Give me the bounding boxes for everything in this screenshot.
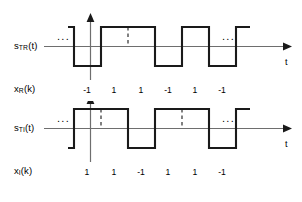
chip-value: -1	[214, 84, 230, 96]
amplitude-axis-arrowhead-imag	[87, 101, 95, 104]
panel-imaginary-branch: sTI(t) ... ... xI(k) 1 1 -1 1 1 -1	[0, 101, 302, 202]
leading-ellipsis-real: ...	[57, 31, 70, 42]
chip-value: 1	[106, 84, 122, 96]
chip-value: 1	[133, 84, 149, 96]
trailing-ellipsis-real: ...	[222, 31, 235, 42]
amplitude-axis-arrowhead-real	[87, 13, 95, 22]
time-axis-label-real: t	[285, 58, 288, 67]
waveform-plot-real	[0, 0, 302, 101]
chip-value: 1	[187, 84, 203, 96]
chip-value: 1	[79, 166, 95, 178]
signal-label-imag: sTI(t)	[14, 123, 34, 134]
chip-value: -1	[214, 166, 230, 178]
waveform-plot-imag	[0, 101, 302, 202]
time-axis-arrowhead-imag	[283, 125, 292, 133]
chip-value: 1	[106, 166, 122, 178]
signal-label-real: sTR(t)	[14, 41, 37, 52]
chip-value: -1	[133, 166, 149, 178]
chip-value: 1	[187, 166, 203, 178]
chip-value: 1	[160, 166, 176, 178]
time-axis-arrowhead-real	[283, 43, 292, 51]
time-axis-label-imag: t	[285, 140, 288, 149]
waveform-figure: sTR(t) ... ... xR(k) -1 1 1 -1 1 -1	[0, 0, 302, 202]
trailing-ellipsis-imag: ...	[222, 113, 235, 124]
chip-value: -1	[79, 84, 95, 96]
sequence-label-imag: xI(k)	[14, 166, 32, 177]
sequence-label-real: xR(k)	[14, 84, 35, 95]
leading-ellipsis-imag: ...	[57, 113, 70, 124]
panel-real-branch: sTR(t) ... ... xR(k) -1 1 1 -1 1 -1	[0, 0, 302, 101]
chip-value: -1	[160, 84, 176, 96]
